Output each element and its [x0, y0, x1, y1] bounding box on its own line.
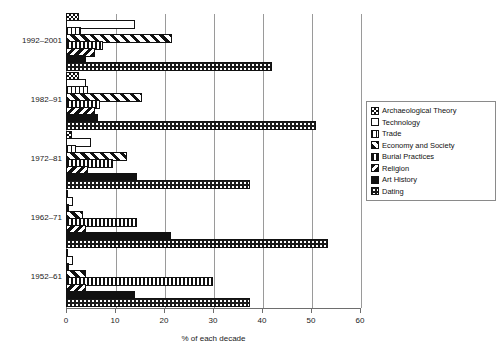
y-axis-category-label: 1952–61	[2, 272, 62, 281]
legend-swatch-icon	[371, 107, 379, 115]
legend-item: Trade	[371, 128, 491, 140]
y-axis-category-label: 1972–81	[2, 154, 62, 163]
legend-item: Dating	[371, 186, 491, 198]
tick-mark	[115, 308, 116, 313]
gridline	[312, 14, 313, 308]
x-tick-label: 60	[356, 316, 365, 325]
legend-label: Archaeological Theory	[382, 107, 457, 115]
x-tick-label: 0	[64, 316, 68, 325]
tick-mark	[262, 308, 263, 313]
legend-label: Technology	[382, 119, 420, 127]
legend-item: Art History	[371, 174, 491, 186]
tick-mark	[213, 308, 214, 313]
legend-swatch-icon	[371, 187, 379, 195]
legend-swatch-icon	[371, 141, 379, 149]
x-tick-label: 30	[209, 316, 218, 325]
gridline	[165, 14, 166, 308]
gridline	[116, 14, 117, 308]
y-axis-category-label: 1982–91	[2, 95, 62, 104]
legend-swatch-icon	[371, 164, 379, 172]
legend-swatch-icon	[371, 153, 379, 161]
gridline	[214, 14, 215, 308]
tick-mark	[66, 308, 67, 313]
tick-mark	[311, 308, 312, 313]
bar	[66, 62, 272, 71]
x-axis-title: % of each decade	[66, 334, 361, 343]
gridline	[361, 14, 362, 308]
tick-mark	[164, 308, 165, 313]
tick-mark	[360, 308, 361, 313]
x-tick-label: 10	[111, 316, 120, 325]
legend-label: Burial Practices	[382, 153, 434, 161]
bar	[66, 180, 250, 189]
legend-item: Archaeological Theory	[371, 105, 491, 117]
legend-label: Trade	[382, 130, 401, 138]
gridline	[263, 14, 264, 308]
bar	[66, 298, 250, 307]
bar-chart: 1992–20011982–911972–811962–711952–61 01…	[0, 0, 502, 362]
bar	[66, 239, 328, 248]
bar	[66, 121, 316, 130]
legend-label: Art History	[382, 176, 417, 184]
legend-swatch-icon	[371, 118, 379, 126]
x-tick-label: 20	[160, 316, 169, 325]
legend-item: Religion	[371, 163, 491, 175]
legend-swatch-icon	[371, 130, 379, 138]
x-tick-label: 40	[258, 316, 267, 325]
y-axis-labels: 1992–20011982–911972–811962–711952–61	[0, 0, 62, 362]
legend-item: Technology	[371, 117, 491, 129]
legend-label: Dating	[382, 188, 404, 196]
legend-label: Religion	[382, 165, 409, 173]
y-axis-category-label: 1962–71	[2, 213, 62, 222]
x-tick-label: 50	[307, 316, 316, 325]
legend-item: Economy and Society	[371, 140, 491, 152]
legend: Archaeological TheoryTechnologyTradeEcon…	[366, 101, 496, 201]
legend-label: Economy and Society	[382, 142, 455, 150]
legend-item: Burial Practices	[371, 151, 491, 163]
y-axis-category-label: 1992–2001	[2, 36, 62, 45]
legend-swatch-icon	[371, 176, 379, 184]
bar	[66, 277, 213, 286]
